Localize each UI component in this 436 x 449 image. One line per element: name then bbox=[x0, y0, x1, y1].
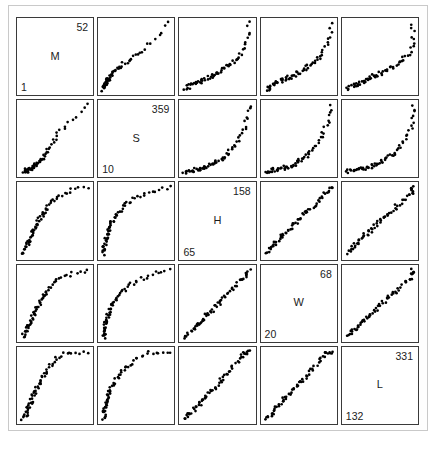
scatter-plot-canvas bbox=[342, 265, 418, 342]
splom-diagonal-cell-l[interactable]: 331L132 bbox=[341, 346, 419, 425]
figure-caption bbox=[0, 435, 436, 449]
splom-panel-l-vs-w[interactable] bbox=[260, 346, 338, 425]
splom-panel-h-vs-l[interactable] bbox=[341, 181, 419, 260]
splom-diagonal-cell-h[interactable]: 158H65 bbox=[178, 181, 256, 260]
splom-panel-s-vs-h[interactable] bbox=[178, 99, 256, 178]
splom-panel-h-vs-s[interactable] bbox=[97, 181, 175, 260]
axis-max-label: 331 bbox=[395, 350, 413, 362]
splom-panel-w-vs-h[interactable] bbox=[178, 264, 256, 343]
axis-min-label: 10 bbox=[102, 163, 114, 175]
scatter-plot-canvas bbox=[261, 347, 337, 424]
axis-min-label: 132 bbox=[346, 410, 364, 422]
scatter-plot-canvas bbox=[342, 100, 418, 177]
axis-max-label: 359 bbox=[152, 103, 170, 115]
splom-panel-w-vs-m[interactable] bbox=[16, 264, 94, 343]
splom-diagonal-cell-m[interactable]: 52M1 bbox=[16, 17, 94, 96]
splom-panel-w-vs-l[interactable] bbox=[341, 264, 419, 343]
scatter-plot-canvas bbox=[98, 18, 174, 95]
scatter-plot-canvas bbox=[17, 182, 93, 259]
variable-name-label: L bbox=[342, 378, 418, 390]
scatter-plot-canvas bbox=[342, 18, 418, 95]
axis-min-label: 20 bbox=[265, 328, 277, 340]
scatter-plot-canvas bbox=[179, 100, 255, 177]
splom-panel-l-vs-s[interactable] bbox=[97, 346, 175, 425]
scatter-plot-canvas bbox=[179, 18, 255, 95]
splom-panel-w-vs-s[interactable] bbox=[97, 264, 175, 343]
splom-panel-h-vs-w[interactable] bbox=[260, 181, 338, 260]
splom-panel-s-vs-l[interactable] bbox=[341, 99, 419, 178]
scatter-plot-canvas bbox=[98, 182, 174, 259]
scatter-plot-canvas bbox=[261, 100, 337, 177]
splom-diagonal-cell-s[interactable]: 359S10 bbox=[97, 99, 175, 178]
variable-name-label: H bbox=[179, 214, 255, 226]
scatter-plot-canvas bbox=[179, 347, 255, 424]
scatter-plot-canvas bbox=[98, 265, 174, 342]
scatter-plot-canvas bbox=[17, 265, 93, 342]
splom-panel-m-vs-w[interactable] bbox=[260, 17, 338, 96]
splom-panel-m-vs-h[interactable] bbox=[178, 17, 256, 96]
scatter-plot-canvas bbox=[98, 347, 174, 424]
splom-diagonal-cell-w[interactable]: 68W20 bbox=[260, 264, 338, 343]
axis-max-label: 158 bbox=[233, 185, 251, 197]
splom-panel-l-vs-m[interactable] bbox=[16, 346, 94, 425]
splom-panel-s-vs-m[interactable] bbox=[16, 99, 94, 178]
scatter-plot-canvas bbox=[179, 265, 255, 342]
variable-name-label: W bbox=[261, 296, 337, 308]
scatter-plot-canvas bbox=[261, 18, 337, 95]
axis-max-label: 68 bbox=[320, 268, 332, 280]
splom-panel-h-vs-m[interactable] bbox=[16, 181, 94, 260]
axis-min-label: 1 bbox=[21, 81, 27, 93]
scatter-plot-canvas bbox=[17, 347, 93, 424]
splom-panel-s-vs-w[interactable] bbox=[260, 99, 338, 178]
axis-max-label: 52 bbox=[77, 21, 89, 33]
splom-panel-l-vs-h[interactable] bbox=[178, 346, 256, 425]
scatter-plot-canvas bbox=[17, 100, 93, 177]
scatterplot-matrix-figure: 52M1359S10158H6568W20331L132 bbox=[0, 0, 436, 449]
scatter-plot-canvas bbox=[261, 182, 337, 259]
scatter-plot-canvas bbox=[342, 182, 418, 259]
splom-panel-m-vs-l[interactable] bbox=[341, 17, 419, 96]
variable-name-label: M bbox=[17, 49, 93, 61]
axis-min-label: 65 bbox=[183, 246, 195, 258]
splom-grid: 52M1359S10158H6568W20331L132 bbox=[16, 17, 419, 425]
variable-name-label: S bbox=[98, 131, 174, 143]
splom-panel-m-vs-s[interactable] bbox=[97, 17, 175, 96]
